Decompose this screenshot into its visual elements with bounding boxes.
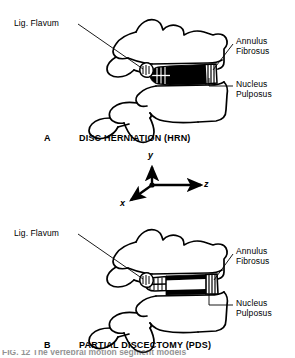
panel-caption-b: PARTIAL DISCECTOMY (PDS): [79, 340, 211, 350]
inferior-superior-facet: [136, 86, 156, 106]
panel-letter-a: A: [44, 133, 51, 143]
coordinate-axes: y z x: [0, 150, 295, 212]
axis-label-x: x: [120, 198, 125, 208]
disc-inferior-band: [166, 289, 206, 295]
axis-x-line: [131, 185, 152, 200]
label-annulus-fibrosus-b: Annulus Fibrosus: [236, 246, 269, 266]
figure-root: Lig. Flavum Annulus Fibrosus Nucleus Pul…: [0, 0, 295, 358]
inferior-notch-detail-b: [118, 334, 129, 337]
panel-letter-b: B: [44, 340, 51, 350]
label-lig-flavum-a: Lig. Flavum: [14, 18, 59, 28]
label-nucleus-pulposus-b: Nucleus Pulposus: [236, 298, 272, 318]
cropped-figure-caption: FIG. 12 The vertebral motion segment mod…: [0, 350, 295, 358]
label-lig-flavum-b: Lig. Flavum: [14, 228, 59, 238]
inferior-notch-detail: [118, 124, 129, 127]
panel-caption-a: DISC HERNIATION (HRN): [79, 133, 191, 143]
inferior-lamina-b: [109, 312, 137, 333]
inferior-vertebra-bottom: [150, 113, 198, 123]
disc-discectomy: [145, 274, 218, 295]
lig-flavum-marker-b: [140, 273, 154, 287]
label-annulus-fibrosus-a: Annulus Fibrosus: [236, 36, 269, 56]
superior-spinous-process-b: [113, 242, 136, 269]
label-nucleus-pulposus-a: Nucleus Pulposus: [236, 79, 272, 99]
inferior-vertebra-right-wall: [198, 82, 227, 122]
superior-endplate: [152, 60, 222, 64]
axis-origin-dot: [149, 182, 154, 187]
panel-b-partial-discectomy: Lig. Flavum Annulus Fibrosus Nucleus Pul…: [0, 212, 295, 358]
nucleus-pulposus-black-mass: [170, 65, 206, 86]
superior-endplate-b: [152, 270, 222, 274]
axis-label-y: y: [148, 150, 153, 160]
lig-flavum-marker-a: [140, 63, 154, 77]
inferior-vertebra-bottom-b: [150, 323, 198, 333]
inferior-spinous-tip-b: [150, 323, 151, 328]
panel-a-disc-herniation: Lig. Flavum Annulus Fibrosus Nucleus Pul…: [0, 0, 295, 150]
evacuated-nucleus-cavity: [166, 279, 206, 290]
cropped-caption-text: FIG. 12 The vertebral motion segment mod…: [2, 350, 186, 357]
disc-herniated: [150, 64, 217, 85]
superior-spinous-process: [113, 32, 136, 59]
inferior-spinous-tip: [150, 113, 151, 118]
axis-label-z: z: [204, 179, 209, 189]
inferior-lamina: [109, 102, 137, 123]
inferior-vertebra-right-wall-b: [198, 292, 227, 332]
inferior-superior-facet-b: [136, 296, 156, 316]
